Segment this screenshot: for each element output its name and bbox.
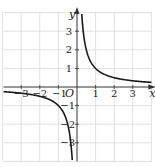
y-tick-label: −3 — [60, 137, 75, 148]
y-tick-label: 2 — [66, 44, 72, 55]
curve-branch-positive — [82, 14, 152, 82]
x-tick-label: −3 — [14, 88, 29, 99]
axes — [4, 7, 155, 161]
y-tick-label: −1 — [60, 100, 75, 111]
hyperbola-plot: −3−2123−1−3−2−1123Oxy — [0, 0, 155, 167]
y-tick-label: 1 — [66, 63, 72, 74]
x-tick-label: 3 — [130, 88, 136, 99]
y-axis-arrow-icon — [75, 7, 80, 14]
x-tick-label: 2 — [111, 88, 117, 99]
y-axis-label: y — [68, 8, 76, 21]
x-tick-label: −2 — [32, 88, 47, 99]
x-tick-label: 1 — [92, 88, 98, 99]
tick-labels: −3−2123−1−3−2−1123Oxy — [14, 8, 155, 148]
y-tick-label: 3 — [66, 26, 72, 37]
y-tick-label: −2 — [60, 119, 75, 130]
x-axis-label: x — [149, 87, 155, 100]
origin-label: O — [65, 87, 74, 100]
